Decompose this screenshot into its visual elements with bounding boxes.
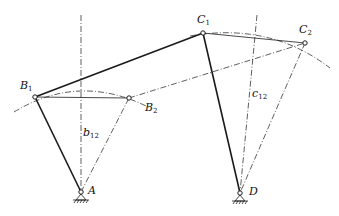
four-bar-linkage-diagram: B1 B2 C1 C2 A D b12 c12 — [0, 0, 339, 216]
arc-b — [14, 91, 150, 112]
joint-c1 — [201, 31, 205, 35]
link-c1-d — [203, 33, 240, 193]
label-c2: C2 — [299, 24, 312, 37]
label-b12: b12 — [83, 127, 99, 140]
label-c12: c12 — [252, 88, 267, 101]
label-a: A — [88, 185, 96, 196]
link-b1-c1 — [35, 33, 203, 97]
joint-b2 — [127, 96, 131, 100]
joint-b1 — [33, 95, 37, 99]
linkage-drawing — [0, 0, 339, 216]
link-a-b2 — [81, 98, 129, 192]
joint-c2 — [303, 41, 307, 45]
chord-b1-b2 — [35, 97, 129, 98]
arc-c — [190, 33, 330, 68]
label-b2: B2 — [145, 102, 158, 115]
label-c1: C1 — [197, 14, 210, 27]
chord-c1-c2 — [203, 33, 305, 43]
label-d: D — [249, 186, 258, 197]
bisector-c12 — [240, 15, 257, 193]
ground-support-d — [232, 195, 248, 204]
ground-support-a — [73, 194, 89, 203]
link-c2-d — [240, 43, 305, 193]
label-b1: B1 — [20, 80, 33, 93]
link-a-b1 — [35, 97, 81, 192]
